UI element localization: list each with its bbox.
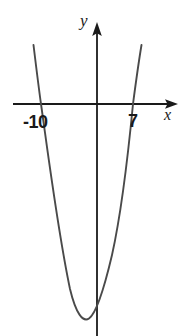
parabola-curve (34, 45, 142, 319)
x-intercept-label-left: -10 (23, 113, 48, 131)
y-axis-label: y (80, 12, 88, 29)
parabola-figure: y x -10 7 (0, 0, 187, 336)
coordinate-plane-svg (0, 0, 187, 336)
x-axis-label: x (164, 107, 171, 123)
x-intercept-label-right: 7 (128, 112, 138, 130)
